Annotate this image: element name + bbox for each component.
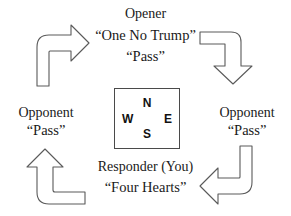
arrow-west-to-north-icon xyxy=(28,32,90,88)
compass-south-label: S xyxy=(115,128,179,140)
bidding-rotation-diagram: Opener “One No Trump” “Pass” Opponent “P… xyxy=(0,0,291,216)
arrow-east-to-south-icon xyxy=(199,146,261,202)
arrow-north-to-east-icon xyxy=(199,30,261,86)
compass-box: N W E S xyxy=(114,88,180,149)
west-opponent-bid-pass: “Pass” xyxy=(2,123,90,138)
compass-west-label: W xyxy=(122,113,133,125)
west-opponent-role-label: Opponent xyxy=(2,106,90,120)
opener-role-label: Opener xyxy=(0,7,291,21)
east-opponent-role-label: Opponent xyxy=(203,106,291,120)
arrow-south-to-west-icon xyxy=(28,148,90,204)
compass-north-label: N xyxy=(115,97,179,109)
compass-east-label: E xyxy=(164,113,172,125)
east-opponent-bid-pass: “Pass” xyxy=(203,123,291,138)
